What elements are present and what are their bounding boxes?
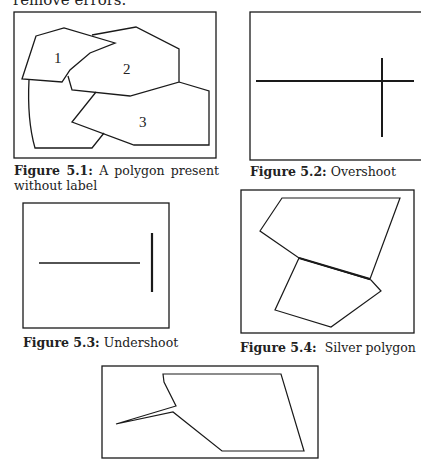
polygon-diagram: 1 2 3 (0, 0, 220, 190)
figure-caption: Figure 5.2: Overshoot (250, 164, 396, 179)
caption-text: Overshoot (327, 164, 396, 179)
silver-polygon-diagram (220, 180, 421, 350)
dangle-polygon-diagram (80, 340, 360, 461)
overshoot-diagram (220, 0, 421, 190)
figure-5-1: 1 2 3 Figure 5.1: A polygon present with… (0, 0, 220, 190)
polygon-label-3: 3 (139, 114, 147, 130)
figure-5-3: Figure 5.3: Undershoot (0, 190, 220, 350)
figure-number: Figure 5.1: (14, 163, 93, 178)
polygon-label-2: 2 (123, 61, 131, 77)
figure-number: Figure 5.2: (250, 164, 327, 179)
figure-5-4: Figure 5.4: Silver polygon (220, 180, 421, 350)
figure-5-2: Figure 5.2: Overshoot (220, 0, 421, 190)
undershoot-diagram (0, 190, 220, 350)
figure-5-5 (80, 340, 360, 461)
figure-caption: Figure 5.1: A polygon present without la… (14, 163, 219, 193)
polygon-label-1: 1 (54, 50, 62, 66)
